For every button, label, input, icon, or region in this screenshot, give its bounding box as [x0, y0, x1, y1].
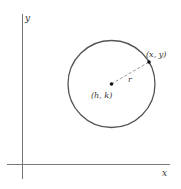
x-axis-label: x: [162, 168, 167, 178]
center-point: [110, 82, 114, 86]
circle-point: [147, 60, 151, 64]
y-axis-label: y: [24, 13, 31, 23]
point-label: (x, y): [146, 50, 166, 59]
center-label: (h, k): [91, 91, 112, 100]
circle-diagram: y x (x, y) (h, k) r: [0, 0, 181, 189]
radius-label: r: [128, 75, 133, 84]
